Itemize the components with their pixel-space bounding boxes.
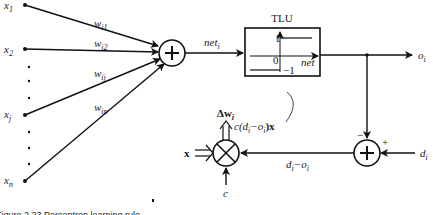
update-expression: c(di−oi)x	[234, 120, 275, 135]
output-label: oi	[418, 49, 426, 64]
perceptron-learning-diagram: x1 x2 xj xn wi1 wi2 wij win neti	[0, 0, 433, 215]
svg-text:−1: −1	[283, 64, 295, 76]
error-summation-node	[354, 140, 380, 166]
svg-text:xn: xn	[3, 174, 13, 189]
figure-caption: Figure 2.23 Perceptron learning rule	[0, 210, 140, 215]
input-ellipsis-lower	[28, 131, 30, 165]
delta-w-arrow	[220, 121, 232, 140]
plus-sign: +	[382, 136, 388, 148]
stray-dot	[152, 199, 154, 202]
svg-text:xj: xj	[3, 108, 12, 123]
stray-mark	[286, 92, 293, 122]
net-label: neti	[204, 36, 220, 51]
summation-node	[159, 40, 185, 66]
svg-text:0: 0	[273, 54, 279, 66]
multiplier-node	[213, 140, 239, 166]
svg-text:1: 1	[275, 32, 281, 44]
desired-label: di	[420, 147, 428, 162]
vector-x-label: x	[184, 147, 190, 159]
vector-x-arrow	[195, 145, 213, 161]
learning-rate-label: c	[223, 187, 228, 199]
input-node-x1: x1	[3, 0, 27, 14]
weight-label-wij: wij	[94, 67, 107, 82]
tlu-block: TLU 1 0 −1 net	[245, 12, 320, 76]
input-node-xj: xj	[3, 108, 27, 123]
weight-label-win: win	[94, 101, 108, 116]
input-node-xn: xn	[3, 174, 27, 189]
svg-text:x2: x2	[3, 43, 13, 58]
input-node-x2: x2	[3, 43, 27, 58]
error-label: di−oi	[286, 158, 309, 173]
svg-text:x1: x1	[3, 0, 13, 14]
minus-sign: −	[357, 129, 363, 141]
svg-text:net: net	[301, 56, 315, 68]
weight-label-wi2: wi2	[94, 37, 108, 52]
weight-label-wi1: wi1	[94, 17, 108, 32]
tlu-title: TLU	[271, 12, 292, 24]
delta-w-label: Δwi	[217, 107, 235, 122]
input-ellipsis-upper	[28, 66, 30, 99]
weight-connections	[25, 5, 164, 181]
